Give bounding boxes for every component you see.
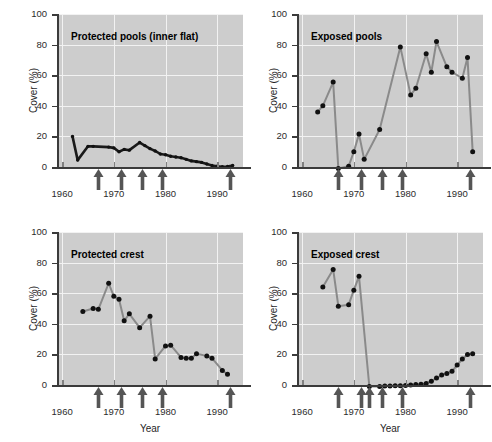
x-axis-tick [354,380,356,385]
event-arrow-up-icon [93,169,104,190]
x-axis-tick [302,162,304,167]
x-axis-tick [217,162,219,167]
data-point [91,145,94,148]
x-axis-label: 1970 [337,189,371,199]
y-axis-tick [292,75,297,77]
x-axis-label: 1970 [97,189,131,199]
y-axis-title: Cover (%) [268,258,279,358]
y-axis-tick [52,354,57,356]
data-point [351,149,356,154]
y-axis-tick [292,385,297,387]
y-axis-tick [292,45,297,47]
y-axis-tick [292,14,297,16]
y-axis-tick [52,385,57,387]
data-point [76,158,79,161]
data-point [450,369,455,374]
event-arrow-up-icon [137,387,148,408]
x-axis-line [57,167,251,169]
x-axis-title: Year [297,423,483,434]
data-point [122,148,125,151]
data-point [357,132,362,137]
y-axis-tick [292,354,297,356]
event-arrow-up-icon [364,387,375,408]
x-axis-tick [166,380,168,385]
data-point [413,86,418,91]
x-axis-label: 1990 [200,407,234,417]
data-point [164,153,167,156]
x-axis-title: Year [57,423,243,434]
data-point [204,353,209,358]
event-arrow-up-icon [225,169,236,190]
x-axis-tick [62,162,64,167]
y-axis-label: 0 [261,380,287,390]
y-axis-tick [52,232,57,234]
data-point [122,318,127,323]
y-axis-title: Cover (%) [268,40,279,140]
data-point [190,159,193,162]
x-axis-label: 1960 [285,189,319,199]
event-arrow-up-icon [157,169,168,190]
data-point [470,149,475,154]
data-point [168,343,173,348]
x-axis-label: 1980 [389,189,423,199]
x-axis-line [57,385,251,387]
data-point [408,93,413,98]
data-point [194,351,199,356]
data-point [398,44,403,49]
x-axis-label: 1960 [45,189,79,199]
data-point [163,343,168,348]
data-point [220,368,225,373]
data-point [320,103,325,108]
data-point [424,51,429,56]
y-axis-line [297,232,299,386]
y-axis-tick [52,167,57,169]
x-axis-label: 1990 [200,189,234,199]
y-axis-tick [292,263,297,265]
series-line [323,269,473,386]
x-axis-tick [457,162,459,167]
event-arrow-up-icon [397,169,408,190]
data-point [148,147,151,150]
y-axis-line [297,14,299,168]
event-arrow-up-icon [116,387,127,408]
y-axis-line [57,232,59,386]
data-point [450,70,455,75]
data-point [153,149,156,152]
y-axis-tick [292,136,297,138]
y-axis-label: 100 [21,9,47,19]
y-axis-label: 100 [261,9,287,19]
x-axis-line [297,167,491,169]
x-axis-label: 1970 [97,407,131,417]
panel-title: Protected pools (inner flat) [71,31,198,42]
panel-title: Protected crest [71,249,144,260]
y-axis-label: 100 [21,227,47,237]
data-point [429,70,434,75]
data-point [195,160,198,163]
event-arrow-up-icon [93,387,104,408]
y-axis-tick [292,106,297,108]
x-axis-label: 1960 [45,407,79,417]
data-point [174,155,177,158]
data-point [107,145,110,148]
event-arrow-up-icon [465,387,476,408]
data-point [429,379,434,384]
y-axis-tick [52,136,57,138]
data-point [153,356,158,361]
data-point [434,376,439,381]
y-axis-label: 0 [21,380,47,390]
y-axis-tick [52,106,57,108]
y-axis-tick [292,324,297,326]
data-point [357,274,362,279]
data-point [331,267,336,272]
y-axis-tick [52,293,57,295]
data-point [225,372,230,377]
series-line [318,42,473,169]
y-axis-title: Cover (%) [28,258,39,358]
data-point [439,373,444,378]
data-point [86,145,89,148]
event-arrow-up-icon [377,169,388,190]
data-point [111,294,116,299]
x-axis-tick [114,162,116,167]
y-axis-tick [292,293,297,295]
x-axis-label: 1980 [389,407,423,417]
